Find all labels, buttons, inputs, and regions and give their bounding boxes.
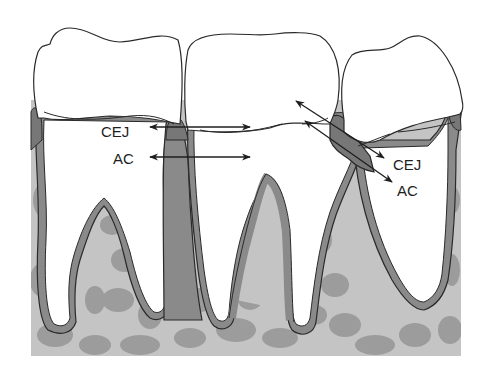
- label-ac-right: AC: [397, 182, 418, 199]
- label-cej-left: CEJ: [101, 123, 129, 140]
- middle-tooth-crown: [185, 33, 340, 133]
- dental-diagram: CEJ AC CEJ AC: [0, 0, 499, 375]
- left-tooth-crown: [34, 28, 182, 124]
- label-ac-left: AC: [113, 150, 134, 167]
- label-cej-right: CEJ: [393, 156, 421, 173]
